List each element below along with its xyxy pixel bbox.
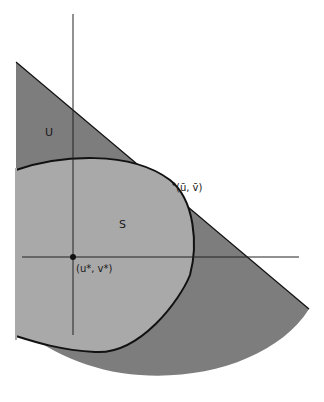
- tangent-point-label: (ū, v̄): [176, 182, 203, 193]
- region-s-label: S: [119, 218, 126, 231]
- diagram-canvas: U S (ū, v̄) (u*, v*): [0, 0, 324, 402]
- origin-point: [70, 254, 76, 260]
- region-u-label: U: [45, 126, 53, 139]
- origin-point-label: (u*, v*): [76, 263, 113, 274]
